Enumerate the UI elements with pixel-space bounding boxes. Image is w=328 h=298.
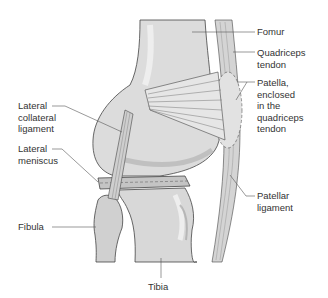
label-patellar-ligament: Patellar ligament xyxy=(257,190,293,213)
label-quadriceps-tendon: Quadriceps tendon xyxy=(257,47,306,70)
label-lateral-collateral-ligament: Lateral collateral ligament xyxy=(18,100,56,135)
label-tibia: Tibia xyxy=(148,281,168,293)
label-fibula: Fibula xyxy=(18,221,44,233)
fibula-bone xyxy=(94,195,123,262)
label-femur: Fomur xyxy=(257,26,284,38)
label-lateral-meniscus: Lateral meniscus xyxy=(18,143,58,166)
knee-diagram: Fomur Quadriceps tendon Patella, enclose… xyxy=(0,0,328,298)
label-patella: Patella, enclosed in the quadriceps tend… xyxy=(257,77,303,135)
tibia-bone xyxy=(118,188,197,262)
